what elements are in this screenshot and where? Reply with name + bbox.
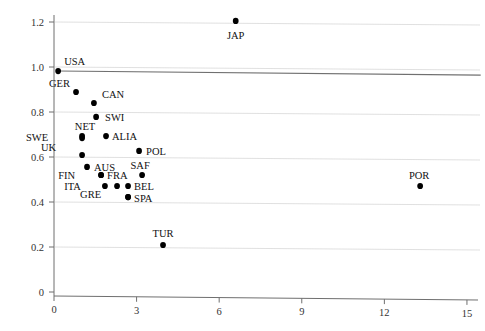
data-point xyxy=(233,18,239,24)
gridline xyxy=(55,247,480,250)
data-point xyxy=(125,183,131,189)
point-label: GER xyxy=(49,78,70,89)
reference-line-group xyxy=(58,71,481,75)
gridline xyxy=(55,67,480,70)
data-point xyxy=(93,114,99,120)
scatter-plot-figure: 03691215 00.20.40.60.81.01.2 JAPUSAGERCA… xyxy=(0,0,485,331)
point-label: BEL xyxy=(134,181,154,192)
data-point xyxy=(79,152,85,158)
point-label: JAP xyxy=(227,30,245,41)
y-tick-label: 0.4 xyxy=(31,197,45,208)
point-label: SPA xyxy=(134,193,153,204)
data-point xyxy=(136,148,142,154)
data-point xyxy=(102,183,108,189)
point-label: SWI xyxy=(105,112,125,123)
x-tick-label: 0 xyxy=(51,304,56,315)
point-label: GRE xyxy=(80,189,101,200)
x-tick-label: 15 xyxy=(462,308,473,319)
chart-canvas: 03691215 00.20.40.60.81.01.2 JAPUSAGERCA… xyxy=(0,0,485,331)
point-label: USA xyxy=(64,56,85,67)
y-axis-ticks: 00.20.40.60.81.01.2 xyxy=(31,17,54,298)
y-tick-label: 0.6 xyxy=(31,152,44,163)
point-label: FIN xyxy=(58,170,75,181)
data-point xyxy=(91,100,97,106)
point-label: SAF xyxy=(130,160,149,171)
data-point xyxy=(417,183,423,189)
gridline xyxy=(55,202,480,205)
x-tick-label: 3 xyxy=(134,305,139,316)
data-point xyxy=(139,172,145,178)
point-label: ITA xyxy=(64,181,81,192)
data-point xyxy=(114,183,120,189)
point-label: FRA xyxy=(107,170,128,181)
data-point xyxy=(55,68,61,74)
data-point xyxy=(84,164,90,170)
y-tick-label: 0.8 xyxy=(31,107,44,118)
data-points-group xyxy=(55,18,423,248)
y-tick-label: 1.2 xyxy=(31,17,44,28)
point-label: POL xyxy=(146,146,166,157)
reference-line xyxy=(58,71,481,75)
x-tick-label: 6 xyxy=(217,306,222,317)
data-point xyxy=(125,194,131,200)
gridline xyxy=(55,22,480,25)
x-axis-line xyxy=(54,296,478,300)
data-point xyxy=(160,242,166,248)
point-labels-group: JAPUSAGERCANSWINETSWEALIAUKPOLAUSSAFFRAF… xyxy=(26,30,429,239)
y-tick-label: 0.2 xyxy=(31,242,44,253)
point-label: ALIA xyxy=(112,131,137,142)
data-point xyxy=(73,89,79,95)
x-tick-label: 12 xyxy=(379,307,390,318)
y-tick-label: 0 xyxy=(39,287,44,298)
point-label: CAN xyxy=(102,89,125,100)
data-point xyxy=(79,135,85,141)
point-label: POR xyxy=(409,170,429,181)
point-label: TUR xyxy=(153,228,174,239)
point-label: NET xyxy=(75,121,96,132)
data-point xyxy=(103,133,109,139)
gridline xyxy=(55,157,480,160)
point-label: UK xyxy=(41,142,57,153)
y-tick-label: 1.0 xyxy=(31,62,44,73)
x-tick-label: 9 xyxy=(299,306,304,317)
